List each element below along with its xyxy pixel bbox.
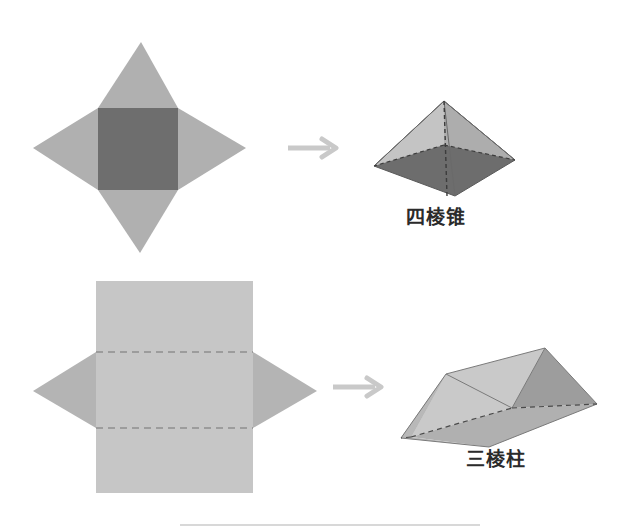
net-end-triangle-left [33,352,96,428]
prism-label: 三棱柱 [466,444,526,471]
bottom-divider [180,524,480,526]
net-lateral-rectangle [96,281,253,493]
transform-arrow-bottom [333,378,381,396]
triangular-prism-net [33,281,317,493]
triangular-prism-row [0,0,629,529]
net-end-triangle-right [253,352,317,428]
triangular-prism-solid [401,348,597,447]
pyramid-label: 四棱锥 [406,202,466,229]
figure-canvas: 四棱锥 三棱柱 [0,0,629,529]
